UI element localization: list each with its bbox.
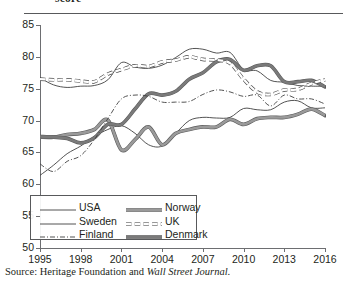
legend-swatch-norway <box>125 202 163 215</box>
legend-label: Norway <box>165 201 201 213</box>
legend-label: Denmark <box>165 228 208 240</box>
chart-legend: USASwedenFinlandNorwayUKDenmark <box>30 195 197 240</box>
legend-label: Sweden <box>79 215 117 227</box>
legend-swatch-sweden <box>39 216 77 229</box>
legend-swatch-uk <box>125 216 163 229</box>
x-tick-mark <box>81 248 82 252</box>
y-tick-mark <box>36 25 40 26</box>
legend-swatch-usa <box>39 202 77 215</box>
series-line-uk-outline <box>40 57 325 95</box>
source-suffix: . <box>228 266 231 277</box>
source-prefix: Source: Heritage Foundation and <box>5 266 147 277</box>
y-tick-mark <box>36 184 40 185</box>
source-italic: Wall Street Journal <box>147 266 228 277</box>
y-tick-mark <box>36 216 40 217</box>
y-tick-mark <box>36 57 40 58</box>
x-tick-mark <box>40 248 41 252</box>
x-tick-mark <box>162 248 163 252</box>
x-tick-mark <box>284 248 285 252</box>
series-line-sweden <box>40 100 325 175</box>
legend-swatch-denmark <box>125 229 163 242</box>
legend-label: USA <box>79 201 101 213</box>
x-tick-mark <box>325 248 326 252</box>
y-tick-mark <box>36 152 40 153</box>
y-tick-mark <box>36 89 40 90</box>
source-note: Source: Heritage Foundation and Wall Str… <box>5 266 230 277</box>
x-tick-mark <box>244 248 245 252</box>
legend-label: Finland <box>79 228 113 240</box>
x-tick-mark <box>203 248 204 252</box>
chart-figure: score 8580757065605550 19951998200120042… <box>0 0 343 285</box>
legend-label: UK <box>165 215 180 227</box>
legend-swatch-finland <box>39 229 77 242</box>
x-tick-mark <box>121 248 122 252</box>
y-tick-mark <box>36 121 40 122</box>
